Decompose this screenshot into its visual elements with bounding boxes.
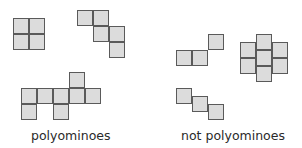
square-cell [29, 18, 45, 34]
square-cell [272, 58, 288, 74]
square-cell [29, 34, 45, 50]
square-cell [109, 42, 125, 58]
square-cell [192, 96, 208, 112]
square-cell [53, 104, 69, 120]
square-cell [109, 26, 125, 42]
square-cell [272, 42, 288, 58]
square-cell [77, 10, 93, 26]
square-cell [93, 10, 109, 26]
square-cell [53, 88, 69, 104]
square-cell [208, 34, 224, 50]
square-cell [240, 42, 256, 58]
square-cell [176, 50, 192, 66]
square-cell [256, 50, 272, 66]
square-cell [21, 104, 37, 120]
square-cell [240, 58, 256, 74]
square-cell [13, 34, 29, 50]
square-cell [192, 50, 208, 66]
square-cell [93, 26, 109, 42]
square-cell [69, 72, 85, 88]
square-cell [69, 88, 85, 104]
square-cell [21, 88, 37, 104]
square-cell [37, 88, 53, 104]
square-cell [208, 104, 224, 120]
square-cell [176, 88, 192, 104]
square-cell [85, 88, 101, 104]
square-cell [13, 18, 29, 34]
square-cell [256, 66, 272, 82]
not-polyominoes-label: not polyominoes [181, 128, 285, 143]
square-cell [256, 34, 272, 50]
polyominoes-label: polyominoes [31, 128, 111, 143]
